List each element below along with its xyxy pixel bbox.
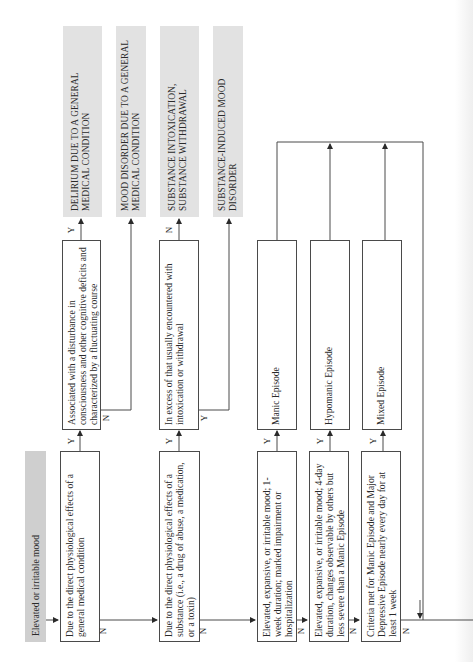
edge-label-yes: Y [66, 438, 76, 445]
outcome-substance-induced-mood: SUBSTANCE-INDUCED MOOD DISORDER [213, 26, 243, 217]
episode-box-manic: Manic Episode [257, 240, 297, 430]
decision-text: Elevated, expansive, or irritable mood; … [310, 452, 350, 643]
start-node: Elevated or irritable mood [25, 451, 46, 642]
decision-box-manic-criteria: Elevated, expansive, or irritable mood; … [257, 451, 297, 642]
flowchart-canvas: Elevated or irritable mood Due to the di… [0, 0, 473, 662]
decision-box-substance: Due to the direct physiological effects … [159, 451, 200, 642]
outcome-delirium-gmc: DELIRIUM DUE TO A GENERAL MEDICAL CONDIT… [63, 26, 102, 217]
decision-box-gmc: Due to the direct physiological effects … [60, 451, 100, 642]
decision-box-hypomanic-criteria: Elevated, expansive, or irritable mood; … [309, 451, 349, 642]
edge-label-no: N [98, 628, 108, 635]
episode-text: Manic Episode [258, 241, 298, 431]
decision-text: Elevated, expansive, or irritable mood; … [258, 452, 298, 643]
decision-box-delirium-check: Associated with a disturbance in conscio… [62, 240, 101, 430]
outcome-substance-intoxication: SUBSTANCE INTOXICATION, SUBSTANCE WITHDR… [160, 26, 199, 217]
outcome-mood-disorder-gmc: MOOD DISORDER DUE TO A GENERAL MEDICAL C… [116, 26, 146, 217]
episode-text: Mixed Episode [363, 241, 403, 431]
edge-label-no: N [296, 628, 306, 635]
episode-box-mixed: Mixed Episode [362, 240, 402, 430]
episode-text: Hypomanic Episode [311, 241, 351, 431]
outcome-text: MOOD DISORDER DUE TO A GENERAL MEDICAL C… [116, 26, 146, 217]
outcome-text: SUBSTANCE-INDUCED MOOD DISORDER [213, 26, 243, 217]
edge-label-yes: Y [315, 438, 325, 445]
edge-label-no: N [348, 628, 358, 635]
episode-box-hypomanic: Hypomanic Episode [310, 240, 350, 430]
edge-label-no: N [198, 628, 208, 635]
edge-label-yes: Y [199, 415, 209, 422]
outcome-text: SUBSTANCE INTOXICATION, SUBSTANCE WITHDR… [160, 26, 199, 217]
edge-label-yes: Y [66, 227, 76, 234]
edge-label-no: N [401, 628, 411, 635]
decision-text: In excess of that usually encountered wi… [160, 241, 200, 431]
decision-box-mixed-criteria: Criteria met for Manic Episode and Major… [361, 451, 401, 642]
decision-text: Criteria met for Manic Episode and Major… [362, 452, 402, 643]
start-node-label: Elevated or irritable mood [25, 451, 46, 642]
decision-text: Associated with a disturbance in conscio… [63, 241, 102, 431]
decision-text: Due to the direct physiological effects … [61, 452, 101, 643]
outcome-text: DELIRIUM DUE TO A GENERAL MEDICAL CONDIT… [63, 26, 102, 217]
edge-label-yes: Y [368, 438, 378, 445]
edge-label-no: N [164, 227, 174, 234]
decision-text: Due to the direct physiological effects … [160, 452, 201, 643]
decision-box-excess-check: In excess of that usually encountered wi… [159, 240, 199, 430]
edge-label-no: N [101, 415, 111, 422]
edge-label-yes: Y [262, 438, 272, 445]
edge-label-yes: Y [164, 438, 174, 445]
